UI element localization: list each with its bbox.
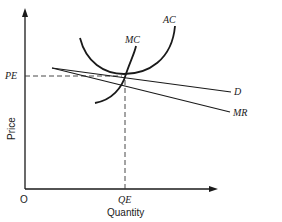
x-axis-arrow-icon [209, 186, 218, 192]
x-axis-label: Quantity [107, 207, 144, 218]
mc-label: MC [124, 34, 140, 45]
diagram-canvas: AC MC D MR PE QE O Quantity Price [0, 0, 282, 222]
y-axis-arrow-icon [22, 8, 28, 17]
qe-label: QE [118, 194, 131, 205]
ac-label: AC [162, 14, 176, 25]
marginal-revenue-curve [52, 68, 230, 112]
d-label: D [233, 86, 242, 97]
x-axis [25, 186, 218, 192]
origin-label: O [20, 194, 28, 205]
y-axis [22, 8, 28, 189]
pe-label: PE [4, 70, 17, 81]
y-axis-label: Price [6, 117, 17, 140]
mr-label: MR [232, 107, 247, 118]
